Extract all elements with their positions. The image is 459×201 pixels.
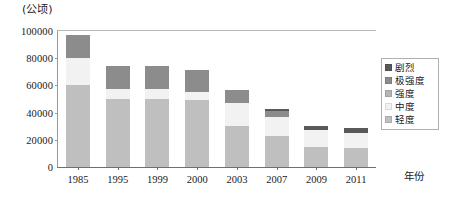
- x-tick-label: 2011: [346, 174, 367, 186]
- legend-item[interactable]: 强度: [385, 87, 435, 100]
- bar-group[interactable]: [66, 31, 90, 167]
- bar-group[interactable]: [225, 31, 249, 167]
- x-tick-label: 2009: [306, 174, 327, 186]
- bar-segment[interactable]: [304, 147, 328, 167]
- legend-label: 剧烈: [395, 62, 415, 73]
- x-tick-mark: [197, 167, 198, 170]
- y-axis-unit-label: (公顷): [22, 3, 53, 16]
- bar-group[interactable]: [185, 31, 209, 167]
- bar-segment[interactable]: [304, 130, 328, 146]
- x-tick-mark: [356, 167, 357, 170]
- bar-segment[interactable]: [66, 85, 90, 167]
- x-tick-label: 2007: [266, 174, 287, 186]
- bar-chart: (公顷) 020000400006000080000100000 1985199…: [0, 0, 459, 201]
- bar-segment[interactable]: [225, 90, 249, 104]
- bar-segment[interactable]: [66, 35, 90, 58]
- y-tick-label: 0: [48, 162, 53, 173]
- plot-area: 020000400006000080000100000 198519951999…: [57, 30, 376, 168]
- bar-segment[interactable]: [225, 126, 249, 167]
- legend-item[interactable]: 剧烈: [385, 61, 435, 74]
- y-tick-label: 80000: [26, 53, 53, 64]
- bar-segment[interactable]: [145, 99, 169, 167]
- bar-group[interactable]: [265, 31, 289, 167]
- x-tick-label: 2000: [187, 174, 208, 186]
- bar-segment[interactable]: [106, 66, 130, 89]
- x-tick-label: 2003: [226, 174, 247, 186]
- legend-item[interactable]: 极强度: [385, 74, 435, 87]
- bar-segment[interactable]: [185, 100, 209, 167]
- legend-item[interactable]: 轻度: [385, 113, 435, 126]
- x-tick-label: 1999: [147, 174, 168, 186]
- y-tick-label: 20000: [26, 134, 53, 145]
- bar-segment[interactable]: [145, 66, 169, 89]
- bar-group[interactable]: [304, 31, 328, 167]
- bar-segment[interactable]: [106, 99, 130, 167]
- bar-segment[interactable]: [106, 89, 130, 99]
- x-tick-mark: [316, 167, 317, 170]
- legend-item[interactable]: 中度: [385, 100, 435, 113]
- bar-group[interactable]: [145, 31, 169, 167]
- x-tick-mark: [118, 167, 119, 170]
- y-tick-label: 40000: [26, 107, 53, 118]
- y-tick-label: 60000: [26, 80, 53, 91]
- bar-segment[interactable]: [185, 92, 209, 100]
- legend-label: 轻度: [395, 114, 415, 125]
- bar-segment[interactable]: [265, 136, 289, 167]
- legend-label: 极强度: [395, 75, 425, 86]
- bar-segment[interactable]: [265, 117, 289, 136]
- bar-stack[interactable]: [145, 66, 169, 167]
- x-tick-mark: [157, 167, 158, 170]
- legend-swatch-icon: [385, 116, 392, 123]
- x-tick-mark: [78, 167, 79, 170]
- bar-stack[interactable]: [185, 70, 209, 167]
- bar-stack[interactable]: [106, 66, 130, 167]
- bar-stack[interactable]: [225, 90, 249, 168]
- x-axis-title: 年份: [404, 170, 424, 182]
- legend-swatch-icon: [385, 77, 392, 84]
- x-tick-label: 1985: [67, 174, 88, 186]
- legend-label: 中度: [395, 101, 415, 112]
- bar-segment[interactable]: [185, 70, 209, 92]
- x-tick-mark: [237, 167, 238, 170]
- legend: 剧烈极强度强度中度轻度: [381, 58, 439, 130]
- bar-group[interactable]: [344, 31, 368, 167]
- bar-segment[interactable]: [66, 58, 90, 85]
- bar-stack[interactable]: [344, 128, 368, 167]
- legend-label: 强度: [395, 88, 415, 99]
- x-tick-mark: [277, 167, 278, 170]
- legend-swatch-icon: [385, 90, 392, 97]
- bar-segment[interactable]: [225, 103, 249, 126]
- bar-stack[interactable]: [66, 35, 90, 167]
- bar-segment[interactable]: [145, 89, 169, 99]
- bar-segment[interactable]: [344, 148, 368, 167]
- bar-stack[interactable]: [304, 126, 328, 167]
- bar-stack[interactable]: [265, 109, 289, 167]
- x-tick-label: 1995: [107, 174, 128, 186]
- bar-group[interactable]: [106, 31, 130, 167]
- y-tick-label: 100000: [21, 26, 53, 37]
- bar-segment[interactable]: [344, 133, 368, 148]
- bars-layer: [58, 31, 376, 167]
- legend-swatch-icon: [385, 64, 392, 71]
- legend-swatch-icon: [385, 103, 392, 110]
